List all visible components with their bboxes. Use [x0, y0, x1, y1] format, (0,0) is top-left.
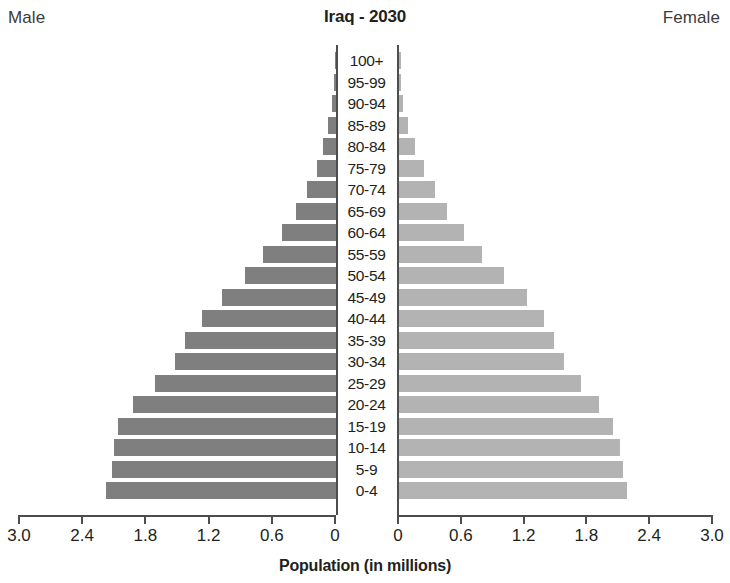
female-axis-tick [648, 515, 650, 524]
bar-row-male [0, 461, 336, 478]
bar-row-female [399, 310, 730, 327]
bar-row-male [0, 267, 336, 284]
age-group-label: 0-4 [336, 482, 397, 499]
female-bar [399, 396, 599, 413]
female-axis-tick-label: 0 [393, 526, 402, 546]
female-axis-tick-label: 1.8 [575, 526, 599, 546]
male-bar [202, 310, 336, 327]
bar-row-female [399, 332, 730, 349]
bar-row-male [0, 310, 336, 327]
age-group-label: 85-89 [336, 117, 397, 134]
male-axis-tick-label: 3.0 [7, 526, 31, 546]
female-bar [399, 203, 447, 220]
bar-row-male [0, 353, 336, 370]
x-axis-rule-female [397, 515, 713, 517]
bar-row-female [399, 267, 730, 284]
bar-row-female [399, 246, 730, 263]
male-bar [328, 117, 336, 134]
bar-row-female [399, 181, 730, 198]
male-axis-tick-label: 1.8 [134, 526, 158, 546]
bar-row-female [399, 52, 730, 69]
male-axis-tick-label: 0 [330, 526, 339, 546]
female-axis-tick-label: 2.4 [637, 526, 661, 546]
bar-row-male [0, 246, 336, 263]
male-bar [282, 224, 336, 241]
male-bar [296, 203, 336, 220]
age-group-label: 100+ [336, 52, 397, 69]
female-bar [399, 117, 408, 134]
female-bar [399, 289, 527, 306]
male-axis-tick-label: 0.6 [260, 526, 284, 546]
bar-row-male [0, 74, 336, 91]
bar-row-male [0, 332, 336, 349]
age-group-label: 40-44 [336, 310, 397, 327]
male-bar [245, 267, 336, 284]
female-bar [399, 332, 554, 349]
x-axis: 3.02.41.81.20.6000.61.21.82.43.0 Populat… [0, 515, 730, 583]
bar-row-male [0, 375, 336, 392]
male-bar [307, 181, 336, 198]
age-group-label: 10-14 [336, 439, 397, 456]
female-bar [399, 95, 403, 112]
age-group-label: 95-99 [336, 74, 397, 91]
bar-row-male [0, 138, 336, 155]
female-axis-tick [585, 515, 587, 524]
age-group-label: 50-54 [336, 267, 397, 284]
age-group-label: 25-29 [336, 375, 397, 392]
bar-row-female [399, 95, 730, 112]
male-bar [114, 439, 336, 456]
female-axis-tick [523, 515, 525, 524]
age-group-label: 75-79 [336, 160, 397, 177]
age-group-label: 30-34 [336, 353, 397, 370]
male-bar [222, 289, 336, 306]
male-bar [263, 246, 337, 263]
bar-row-male [0, 160, 336, 177]
female-axis-tick-label: 1.2 [512, 526, 536, 546]
bar-row-male [0, 203, 336, 220]
male-bar [133, 396, 336, 413]
female-axis-tick-label: 3.0 [700, 526, 724, 546]
female-bar [399, 138, 415, 155]
male-bar [106, 482, 336, 499]
age-group-label: 90-94 [336, 95, 397, 112]
bar-row-female [399, 138, 730, 155]
bar-row-male [0, 439, 336, 456]
age-group-label: 20-24 [336, 396, 397, 413]
bar-row-female [399, 461, 730, 478]
chart-title: Iraq - 2030 [0, 7, 730, 27]
age-group-label: 45-49 [336, 289, 397, 306]
male-axis-tick-label: 1.2 [197, 526, 221, 546]
female-bar [399, 74, 401, 91]
female-bar [399, 267, 504, 284]
bar-row-female [399, 74, 730, 91]
age-group-label: 80-84 [336, 138, 397, 155]
female-axis-tick [397, 515, 399, 524]
bar-row-male [0, 482, 336, 499]
female-bar [399, 310, 544, 327]
female-bar [399, 375, 581, 392]
male-bar [155, 375, 336, 392]
female-bar [399, 181, 435, 198]
female-bar [399, 160, 424, 177]
bar-row-female [399, 418, 730, 435]
bar-row-female [399, 160, 730, 177]
male-axis-tick [271, 515, 273, 524]
male-bar [112, 461, 336, 478]
female-axis-tick [711, 515, 713, 524]
bar-row-male [0, 418, 336, 435]
age-group-label: 70-74 [336, 181, 397, 198]
male-axis-tick [334, 515, 336, 524]
bar-row-female [399, 375, 730, 392]
male-axis-tick [208, 515, 210, 524]
female-bar [399, 246, 482, 263]
male-bar [317, 160, 336, 177]
bar-row-female [399, 396, 730, 413]
bar-row-female [399, 224, 730, 241]
bar-row-male [0, 52, 336, 69]
bar-row-male [0, 396, 336, 413]
bar-row-female [399, 353, 730, 370]
female-bar [399, 439, 620, 456]
age-group-label: 55-59 [336, 246, 397, 263]
bar-row-male [0, 289, 336, 306]
male-axis-tick [144, 515, 146, 524]
